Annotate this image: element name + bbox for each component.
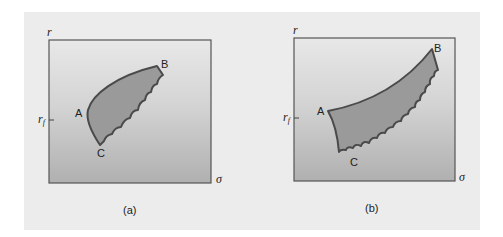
plot-a-caption: (a): [123, 204, 136, 216]
plot-b-caption: (b): [365, 202, 378, 214]
plot-b-point-a: A: [317, 105, 325, 117]
plot-a-point-a: A: [75, 107, 83, 119]
plot-b-rf-label: rf: [283, 110, 292, 125]
plot-a-point-c: C: [97, 147, 105, 159]
figure-svg: r σ rf A B C (a) r σ rf A B C (b): [0, 0, 503, 237]
plot-b-y-axis-label: r: [293, 23, 298, 37]
plot-b-point-b: B: [434, 42, 441, 54]
plot-a-point-b: B: [161, 58, 168, 70]
plot-a: [49, 40, 211, 183]
plot-b-x-axis-label: σ: [459, 170, 466, 184]
plot-a-x-axis-label: σ: [216, 172, 223, 186]
plot-a-rf-label: rf: [38, 112, 47, 127]
plot-b-point-c: C: [350, 156, 358, 168]
plot-a-y-axis-label: r: [47, 25, 52, 39]
